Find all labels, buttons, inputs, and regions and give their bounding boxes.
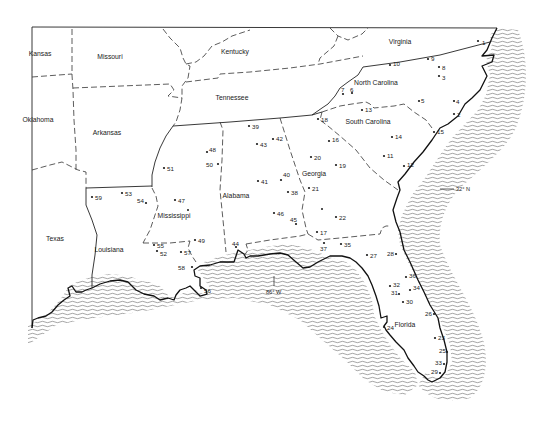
- station-dot-icon: [433, 313, 435, 315]
- station-number: 13: [365, 106, 372, 113]
- station-dot-icon: [323, 242, 325, 244]
- station-number: 56: [204, 287, 211, 294]
- station-dot-icon: [443, 363, 445, 365]
- station-40: 40: [280, 171, 291, 181]
- station-dot-icon: [403, 165, 405, 167]
- station-14: 14: [391, 133, 403, 140]
- station-dot-icon: [389, 285, 391, 287]
- station-51: 51: [163, 165, 175, 172]
- station-38: 38: [287, 189, 299, 196]
- station-44: 44: [232, 240, 239, 248]
- station-dot-icon: [328, 140, 330, 142]
- station-number: 8: [442, 64, 446, 71]
- station-number: 1: [482, 39, 486, 46]
- station-37: 37: [320, 242, 327, 252]
- state-label-oklahoma: Oklahoma: [23, 116, 54, 123]
- station-dot-icon: [191, 266, 193, 268]
- station-dot-icon: [402, 301, 404, 303]
- station-dot-icon: [180, 251, 182, 253]
- station-5: 5: [418, 97, 425, 104]
- station-19: 19: [335, 162, 347, 169]
- state-label-kentucky: Kentucky: [221, 48, 250, 56]
- station-dot-icon: [383, 155, 385, 157]
- station-dot-icon: [361, 109, 363, 111]
- station-number: 12: [407, 161, 414, 168]
- station-number: 2: [457, 111, 461, 118]
- station-32: 32: [389, 281, 401, 288]
- station-48: 48: [206, 146, 217, 153]
- station-number: 19: [339, 162, 346, 169]
- station-number: 52: [160, 250, 167, 257]
- station-number: 39: [252, 123, 259, 130]
- station-number: 16: [332, 136, 339, 143]
- station-57: 57: [180, 249, 192, 256]
- state-label-mississippi: Mississippi: [158, 212, 191, 220]
- station-dot-icon: [272, 138, 274, 140]
- station-35: 35: [340, 241, 352, 248]
- station-number: 18: [321, 116, 328, 123]
- station-46: 46: [273, 210, 285, 217]
- station-number: 33: [435, 359, 442, 366]
- station-49: 49: [194, 237, 206, 244]
- station-number: 4: [456, 98, 460, 105]
- station-dot-icon: [438, 75, 440, 77]
- station-number: 54: [137, 197, 144, 204]
- station-12: 12: [403, 161, 415, 168]
- station-number: 48: [209, 146, 216, 153]
- station-number: 42: [276, 135, 283, 142]
- station-50: 50: [206, 161, 219, 168]
- station-56: 56: [200, 287, 212, 294]
- station-21: 21: [308, 185, 320, 192]
- station-number: 25: [439, 347, 446, 354]
- station-59: 59: [91, 194, 103, 201]
- station-number: 21: [312, 185, 319, 192]
- station-3: 3: [438, 74, 446, 81]
- station-39: 39: [248, 123, 260, 130]
- station-number: 36: [409, 272, 416, 279]
- station-number: 26: [425, 310, 432, 317]
- station-dot-icon: [398, 293, 400, 295]
- station-number: 22: [339, 214, 346, 221]
- state-label-georgia: Georgia: [302, 170, 326, 178]
- station-dot-icon: [366, 254, 368, 256]
- state-label-louisiana: Louisiana: [94, 246, 123, 253]
- station-34: 34: [409, 284, 421, 291]
- station-dot-icon: [153, 244, 155, 246]
- station-dot-icon: [295, 223, 297, 225]
- state-label-south-carolina: South Carolina: [346, 118, 391, 125]
- station-28: 28: [387, 250, 397, 257]
- station-number: 43: [260, 141, 267, 148]
- station-dot-icon: [438, 66, 440, 68]
- station-number: 44: [232, 240, 239, 247]
- station-number: 20: [314, 154, 321, 161]
- station-43: 43: [256, 141, 268, 148]
- station-dot-icon: [280, 179, 282, 181]
- station-18: 18: [317, 116, 329, 123]
- station-dot-icon: [395, 253, 397, 255]
- station-number: 9: [431, 55, 435, 62]
- station-58: 58: [178, 264, 193, 271]
- station-dot-icon: [409, 289, 411, 291]
- station-number: 35: [344, 241, 351, 248]
- station-dot-icon: [200, 287, 202, 289]
- station-29: 29: [431, 368, 441, 375]
- station-dot-icon: [335, 164, 337, 166]
- station-dot-icon: [446, 351, 448, 353]
- station-dot-icon: [383, 326, 385, 328]
- station-dot-icon: [91, 196, 93, 198]
- station-number: 41: [261, 178, 268, 185]
- station-27: 27: [366, 252, 378, 259]
- station-dot-icon: [439, 372, 441, 374]
- station-13: 13: [361, 106, 373, 113]
- station-number: 28: [387, 250, 394, 257]
- station-22: 22: [335, 214, 347, 221]
- station-dot-icon: [256, 143, 258, 145]
- station-dot-icon: [391, 136, 393, 138]
- unlabeled-point-icon: [321, 208, 323, 210]
- station-31: 31: [391, 289, 400, 296]
- station-15: 15: [433, 128, 445, 135]
- station-dot-icon: [434, 337, 436, 339]
- station-number: 38: [291, 189, 298, 196]
- station-9: 9: [427, 55, 435, 62]
- dashed-borders: [32, 28, 432, 262]
